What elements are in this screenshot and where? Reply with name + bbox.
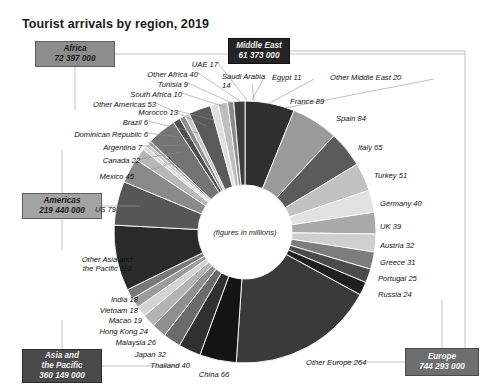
center-note: (figures in millions) <box>195 228 295 237</box>
region-box-africa[interactable]: Africa 72 397 000 <box>35 41 115 67</box>
region-box-asia-pacific-name-2: the Pacific <box>42 361 83 371</box>
label-dominican-republic: Dominican Republic 6 <box>44 130 148 139</box>
region-box-europe[interactable]: Europe 744 293 000 <box>405 348 479 376</box>
label-other-middle-east: Other Middle East 20 <box>330 73 434 82</box>
label-canada: Canada 22 <box>68 156 140 165</box>
region-box-middle-east[interactable]: Middle East 61 373 000 <box>228 38 290 64</box>
label-uk: UK 39 <box>380 222 432 231</box>
label-france: France 89 <box>290 97 348 106</box>
region-box-middle-east-value: 61 373 000 <box>239 51 280 61</box>
label-india: India 18 <box>84 295 138 304</box>
label-egypt: Egypt 11 <box>272 73 324 82</box>
label-uae: UAE 17 <box>148 60 218 69</box>
label-germany: Germany 40 <box>380 199 456 208</box>
label-vietnam: Vietnam 18 <box>74 306 138 315</box>
label-thailand: Thailand 40 <box>118 361 190 370</box>
label-macao: Macao 19 <box>82 316 142 325</box>
label-other-americas: Other Americas 53 <box>58 100 156 109</box>
region-box-asia-pacific-name-1: Asia and <box>45 351 79 361</box>
label-tunisia: Tunisia 9 <box>120 80 188 89</box>
region-box-europe-value: 744 293 000 <box>419 362 465 372</box>
leader-line <box>182 93 225 107</box>
label-greece: Greece 31 <box>380 258 442 267</box>
label-turkey: Turkey 51 <box>374 171 436 180</box>
label-other-asia-pacific-line2: the Pacific 118 <box>46 264 132 273</box>
label-saudi-arabia-line2: 14 <box>222 81 252 90</box>
label-spain: Spain 84 <box>336 114 392 123</box>
label-portugal: Portugal 25 <box>378 274 446 283</box>
label-us: US 79 <box>64 205 116 214</box>
region-box-asia-pacific-value: 360 149 000 <box>39 371 85 381</box>
region-box-africa-name: Africa <box>63 44 86 54</box>
label-china: China 66 <box>186 370 242 379</box>
label-other-africa: Other Africa 40 <box>110 70 198 79</box>
label-italy: Italy 65 <box>358 143 412 152</box>
label-south-africa: South Africa 10 <box>92 90 182 99</box>
label-hong-kong: Hong Kong 24 <box>66 327 148 336</box>
label-austria: Austria 32 <box>380 241 444 250</box>
tourist-arrivals-infographic: Tourist arrivals by region, 2019 (figure… <box>0 0 486 390</box>
label-other-europe: Other Europe 264 <box>306 358 406 367</box>
region-box-middle-east-name: Middle East <box>236 41 282 51</box>
region-box-asia-pacific[interactable]: Asia and the Pacific 360 149 000 <box>22 349 102 383</box>
region-box-europe-name: Europe <box>428 352 456 362</box>
label-japan: Japan 32 <box>104 350 166 359</box>
label-brazil: Brazil 6 <box>78 118 148 127</box>
label-russia: Russia 24 <box>378 290 440 299</box>
label-malaysia: Malaysia 26 <box>78 338 156 347</box>
label-argentina: Argentina 7 <box>62 143 142 152</box>
label-mexico: Mexico 45 <box>62 172 134 181</box>
region-box-africa-value: 72 397 000 <box>55 54 96 64</box>
